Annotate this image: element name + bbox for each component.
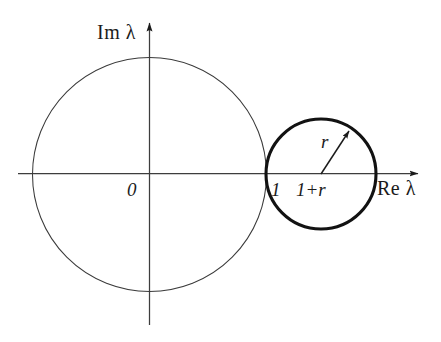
real-axis-label: Re λ (377, 178, 416, 198)
small-circle-center-label: 1+r (296, 180, 326, 199)
figure-canvas (0, 0, 441, 342)
imaginary-axis-label: Im λ (97, 22, 136, 42)
radius-label: r (321, 132, 328, 151)
complex-plane-figure: Im λ Re λ 0 1 1+r r (0, 0, 441, 342)
unit-point-label: 1 (271, 180, 281, 199)
origin-label: 0 (127, 180, 137, 199)
